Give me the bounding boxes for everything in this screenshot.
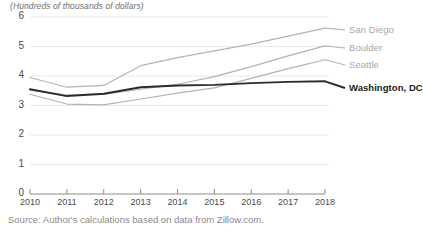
y-axis-tick-label: 1 bbox=[6, 158, 24, 169]
x-axis-tick-label: 2011 bbox=[49, 197, 85, 207]
y-axis-tick-label: 4 bbox=[6, 69, 24, 80]
series-label-boulder: Boulder bbox=[349, 42, 382, 53]
label-leader-lines bbox=[325, 28, 345, 88]
x-axis-tick-label: 2013 bbox=[123, 197, 159, 207]
x-axis-tick-label: 2010 bbox=[12, 197, 48, 207]
x-axis-tick-label: 2015 bbox=[196, 197, 232, 207]
y-axis-tick-label: 5 bbox=[6, 40, 24, 51]
x-axis-tick-label: 2012 bbox=[86, 197, 122, 207]
source-note: Source: Author's calculations based on d… bbox=[8, 214, 264, 225]
x-axis-tick-label: 2016 bbox=[233, 197, 269, 207]
series-label-seattle: Seattle bbox=[349, 59, 379, 70]
x-axis-tick-label: 2017 bbox=[270, 197, 306, 207]
series-label-washington-dc: Washington, DC bbox=[349, 82, 423, 93]
y-axis-tick-label: 2 bbox=[6, 128, 24, 139]
y-axis-tick-label: 3 bbox=[6, 99, 24, 110]
gridlines-group bbox=[30, 17, 329, 165]
x-axis-tick-label: 2018 bbox=[307, 197, 343, 207]
series-lines-group bbox=[30, 28, 325, 105]
x-axis-tick-label: 2014 bbox=[160, 197, 196, 207]
series-label-san-diego: San Diego bbox=[349, 24, 394, 35]
y-axis-tick-label: 6 bbox=[6, 10, 24, 21]
x-axis-tick-marks bbox=[30, 189, 325, 194]
